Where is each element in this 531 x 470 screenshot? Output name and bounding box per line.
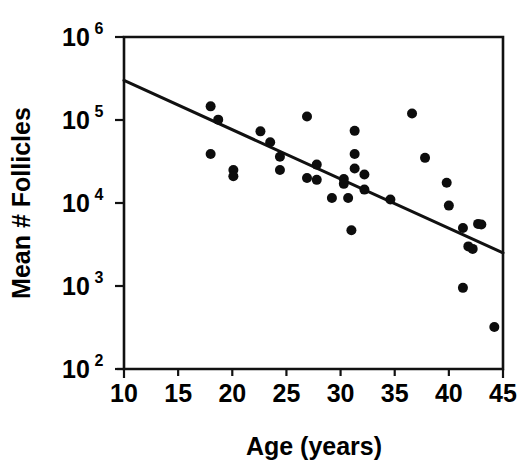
- chart-canvas: 1015202530354045 102103104105106 Age (ye…: [0, 0, 531, 470]
- data-point: [420, 153, 430, 163]
- data-point: [346, 225, 356, 235]
- data-point: [442, 178, 452, 188]
- data-point: [489, 322, 499, 332]
- y-tick-label: 104: [62, 186, 103, 217]
- y-axis-ticks: [115, 37, 124, 369]
- data-point: [476, 220, 486, 230]
- y-tick-label: 102: [62, 352, 103, 383]
- data-point: [350, 164, 360, 174]
- data-point: [458, 223, 468, 233]
- svg-text:3: 3: [95, 269, 104, 286]
- data-point: [255, 126, 265, 136]
- svg-text:10: 10: [62, 23, 90, 51]
- data-point: [350, 149, 360, 159]
- svg-text:6: 6: [95, 20, 104, 37]
- data-point: [312, 175, 322, 185]
- x-tick-label: 15: [164, 379, 192, 407]
- data-point: [339, 179, 349, 189]
- x-tick-label: 45: [489, 379, 517, 407]
- svg-text:10: 10: [62, 355, 90, 383]
- svg-text:10: 10: [62, 272, 90, 300]
- data-point: [302, 112, 312, 122]
- data-point: [228, 171, 238, 181]
- data-point: [327, 193, 337, 203]
- data-point: [302, 173, 312, 183]
- svg-text:10: 10: [62, 189, 90, 217]
- follicle-age-scatter-figure: 1015202530354045 102103104105106 Age (ye…: [0, 0, 531, 470]
- x-tick-label: 35: [381, 379, 409, 407]
- data-points: [206, 101, 500, 332]
- x-axis-tick-labels: 1015202530354045: [110, 379, 517, 407]
- data-point: [350, 126, 360, 136]
- y-axis-title: Mean # Follicles: [7, 107, 35, 299]
- data-point: [275, 152, 285, 162]
- x-axis-ticks: [117, 369, 503, 378]
- y-tick-label: 106: [62, 20, 103, 51]
- data-point: [359, 170, 369, 180]
- data-point: [206, 101, 216, 111]
- data-point: [343, 193, 353, 203]
- svg-text:5: 5: [95, 103, 104, 120]
- x-tick-label: 30: [327, 379, 355, 407]
- data-point: [444, 201, 454, 211]
- data-point: [458, 283, 468, 293]
- data-point: [213, 115, 223, 125]
- data-point: [407, 108, 417, 118]
- x-tick-label: 20: [218, 379, 246, 407]
- data-point: [265, 137, 275, 147]
- x-tick-label: 40: [435, 379, 463, 407]
- data-point: [312, 160, 322, 170]
- data-point: [206, 149, 216, 159]
- y-axis-tick-labels: 102103104105106: [62, 20, 103, 383]
- svg-text:2: 2: [95, 352, 104, 369]
- svg-text:10: 10: [62, 106, 90, 134]
- svg-text:4: 4: [95, 186, 104, 203]
- x-tick-label: 25: [273, 379, 301, 407]
- y-tick-label: 105: [62, 103, 103, 134]
- y-tick-label: 103: [62, 269, 103, 300]
- x-axis-title: Age (years): [246, 432, 382, 460]
- data-point: [468, 244, 478, 254]
- data-point: [359, 185, 369, 195]
- data-point: [275, 165, 285, 175]
- x-tick-label: 10: [110, 379, 138, 407]
- data-point: [385, 195, 395, 205]
